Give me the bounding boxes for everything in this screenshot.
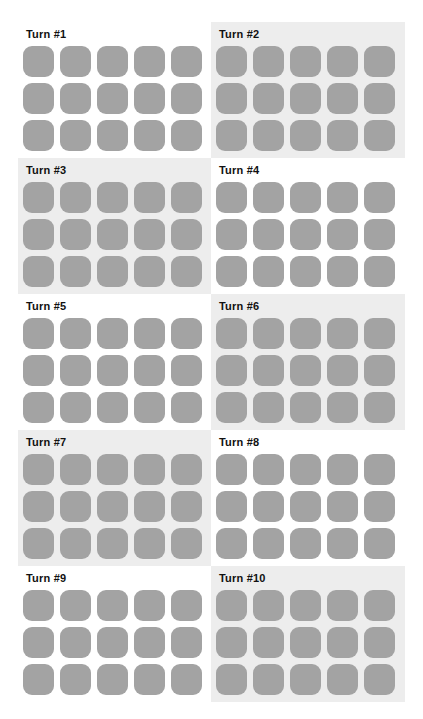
tile [290, 491, 321, 522]
tile [327, 355, 358, 386]
tile [97, 627, 128, 658]
tile [327, 491, 358, 522]
tile [327, 528, 358, 559]
tile [134, 318, 165, 349]
turn-panel-3: Turn #3 [18, 158, 211, 294]
tile [290, 256, 321, 287]
tile [290, 46, 321, 77]
tile [97, 355, 128, 386]
tile [253, 46, 284, 77]
tile [23, 355, 54, 386]
tile [364, 318, 395, 349]
tile [60, 528, 91, 559]
tile [290, 318, 321, 349]
turn-panel-6: Turn #6 [211, 294, 405, 430]
tile [290, 392, 321, 423]
tile-grid [216, 46, 395, 151]
tile [60, 256, 91, 287]
tile-grid [216, 182, 395, 287]
tile [134, 256, 165, 287]
tile [134, 627, 165, 658]
tile [23, 454, 54, 485]
tile [216, 590, 247, 621]
tile [290, 664, 321, 695]
tile [97, 120, 128, 151]
tile [290, 219, 321, 250]
tile [364, 83, 395, 114]
tile [60, 120, 91, 151]
tile [134, 590, 165, 621]
tile [327, 318, 358, 349]
tile [364, 256, 395, 287]
tile [97, 528, 128, 559]
tile [290, 120, 321, 151]
tile [253, 182, 284, 213]
tile [253, 256, 284, 287]
tile [327, 182, 358, 213]
tile [327, 219, 358, 250]
tile [216, 46, 247, 77]
turn-panel-9: Turn #9 [18, 566, 211, 702]
tile [253, 120, 284, 151]
tile [134, 664, 165, 695]
tile [134, 528, 165, 559]
tile [253, 454, 284, 485]
tile [134, 491, 165, 522]
tile [97, 491, 128, 522]
tile [97, 590, 128, 621]
turn-panel-10: Turn #10 [211, 566, 405, 702]
tile [171, 256, 202, 287]
tile [253, 355, 284, 386]
tile [23, 318, 54, 349]
tile [23, 46, 54, 77]
tile [216, 182, 247, 213]
tile [97, 219, 128, 250]
tile [253, 219, 284, 250]
tile [171, 120, 202, 151]
turn-title: Turn #2 [219, 28, 259, 40]
tile-grid [23, 454, 202, 559]
tile [364, 664, 395, 695]
tile-grid [23, 318, 202, 423]
tile [216, 318, 247, 349]
turn-title: Turn #5 [26, 300, 66, 312]
tile [290, 182, 321, 213]
tile [290, 627, 321, 658]
tile [327, 664, 358, 695]
tile [364, 182, 395, 213]
tile [290, 590, 321, 621]
tile [327, 256, 358, 287]
tile [97, 454, 128, 485]
tile [60, 491, 91, 522]
tile [134, 120, 165, 151]
tile [60, 454, 91, 485]
tile [216, 256, 247, 287]
tile [97, 46, 128, 77]
tile [253, 491, 284, 522]
tile [60, 318, 91, 349]
tile [253, 590, 284, 621]
tile [216, 664, 247, 695]
turn-panel-1: Turn #1 [18, 22, 211, 158]
tile [134, 454, 165, 485]
tile [253, 83, 284, 114]
tile-grid [216, 454, 395, 559]
tile [171, 392, 202, 423]
tile [97, 664, 128, 695]
turn-title: Turn #8 [219, 436, 259, 448]
turn-title: Turn #9 [26, 572, 66, 584]
tile [364, 454, 395, 485]
tile [60, 83, 91, 114]
tile [364, 528, 395, 559]
tile [327, 46, 358, 77]
turn-title: Turn #6 [219, 300, 259, 312]
tile [216, 392, 247, 423]
turn-title: Turn #4 [219, 164, 259, 176]
tile [171, 355, 202, 386]
tile [327, 627, 358, 658]
tile-grid [216, 590, 395, 695]
tile [253, 318, 284, 349]
tile [60, 664, 91, 695]
tile [171, 627, 202, 658]
tile [364, 46, 395, 77]
